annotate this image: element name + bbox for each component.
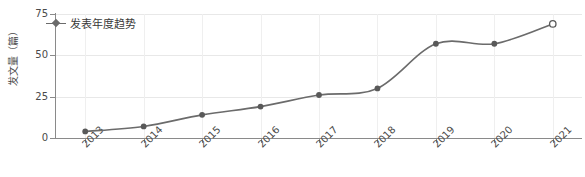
data-point-2018[interactable] — [375, 86, 381, 92]
data-point-2019[interactable] — [433, 41, 439, 47]
data-point-2013[interactable] — [82, 128, 88, 134]
legend: 发表年度趋势 — [46, 15, 136, 31]
data-point-2015[interactable] — [199, 112, 205, 118]
data-point-2017[interactable] — [316, 92, 322, 98]
publication-trend-chart: 发文量（篇） 0255075 2013201420152016201720182… — [0, 0, 585, 177]
series-line-publication-trend — [85, 24, 553, 131]
data-point-2021[interactable] — [550, 21, 556, 27]
legend-diamond-line-marker-icon — [46, 18, 66, 28]
data-point-2016[interactable] — [258, 104, 264, 110]
data-point-2020[interactable] — [491, 41, 497, 47]
legend-label-publication-trend: 发表年度趋势 — [70, 15, 136, 31]
data-point-2014[interactable] — [141, 124, 147, 130]
